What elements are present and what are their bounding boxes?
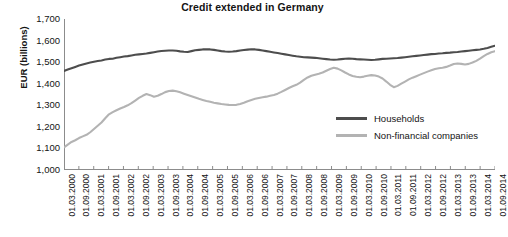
x-tick-label: 01.09.2009	[350, 174, 359, 217]
x-tick-label: 01.09.2005	[231, 174, 240, 217]
legend-label: Households	[374, 113, 424, 124]
x-tick-label: 01.03.2007	[276, 174, 285, 217]
x-tick-label: 01.09.2001	[112, 174, 121, 217]
x-tick-label: 01.03.2000	[68, 174, 77, 217]
x-tick-label: 01.09.2004	[201, 174, 210, 217]
x-tick-label: 01.03.2002	[127, 174, 136, 217]
x-tick-label: 01.03.2004	[186, 174, 195, 217]
y-tick-label: 1,500	[22, 57, 60, 67]
x-tick-label: 01.03.2009	[335, 174, 344, 217]
legend-color-swatch	[336, 134, 367, 137]
chart-lines-svg	[64, 19, 495, 170]
legend-color-swatch	[336, 117, 367, 120]
series-line	[64, 46, 495, 71]
chart-legend: HouseholdsNon-financial companies	[336, 110, 478, 144]
legend-label: Non-financial companies	[374, 130, 478, 141]
y-tick-label: 1,000	[22, 165, 60, 175]
x-tick-label: 01.09.2013	[469, 174, 478, 217]
x-tick-label: 01.03.2010	[365, 174, 374, 217]
y-tick-label: 1,100	[22, 144, 60, 154]
x-tick-label: 01.09.2012	[439, 174, 448, 217]
x-tick-label: 01.09.2003	[172, 174, 181, 217]
x-tick-label: 01.03.2003	[157, 174, 166, 217]
y-tick-label: 1,200	[22, 122, 60, 132]
y-tick-label: 1,400	[22, 79, 60, 89]
y-tick-label: 1,600	[22, 36, 60, 46]
chart-title: Credit extended in Germany	[0, 1, 505, 13]
y-tick-label: 1,300	[22, 101, 60, 111]
x-tick-label: 01.03.2013	[454, 174, 463, 217]
legend-item: Non-financial companies	[336, 127, 478, 144]
x-tick-label: 01.03.2008	[305, 174, 314, 217]
plot-area	[64, 19, 495, 170]
x-tick-label: 01.09.2011	[409, 174, 418, 216]
x-tick-label: 01.03.2006	[246, 174, 255, 217]
y-tick-label: 1,700	[22, 14, 60, 24]
x-tick-label: 01.03.2011	[394, 174, 403, 216]
x-tick-label: 01.09.2007	[290, 174, 299, 217]
x-tick-label: 01.09.2008	[320, 174, 329, 217]
x-tick-label: 01.09.2000	[82, 174, 91, 217]
x-tick-label: 01.09.2006	[261, 174, 270, 217]
x-tick-label: 01.03.2005	[216, 174, 225, 217]
x-tick-label: 01.03.2012	[424, 174, 433, 217]
x-tick-label: 01.03.2001	[97, 174, 106, 217]
y-axis-tick-labels: 1,7001,6001,5001,4001,3001,2001,1001,000	[22, 19, 60, 170]
x-tick-label: 01.09.2014	[499, 174, 508, 217]
x-tick-label: 01.09.2002	[142, 174, 151, 217]
legend-item: Households	[336, 110, 478, 127]
x-tick-label: 01.03.2014	[484, 174, 493, 217]
x-axis-tick-labels: 01.03.200001.09.200001.03.200101.09.2001…	[64, 174, 495, 234]
x-tick-label: 01.09.2010	[380, 174, 389, 217]
